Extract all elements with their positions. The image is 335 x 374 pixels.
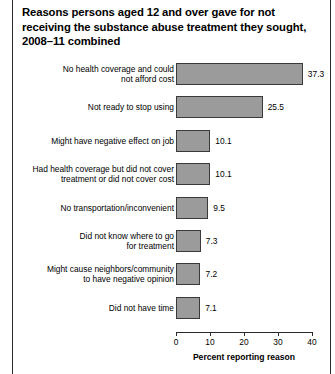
bar-value-label: 25.5 [268,96,284,118]
bar-value-label: 7.1 [205,297,217,319]
x-tick-label: 10 [205,337,214,347]
bar [176,297,200,319]
bar-track: 37.3 [176,58,335,91]
bar-track: 7.1 [176,292,335,325]
plot-area: No health coverage and could not afford … [0,58,335,338]
bar-value-label: 37.3 [308,63,324,85]
bar [176,230,201,252]
bar-rows: No health coverage and could not afford … [0,58,335,325]
bar-row: Might cause neighbors/community to have … [0,258,335,291]
bar [176,130,210,152]
bar [176,96,263,118]
x-tick [312,332,313,336]
bar-track: 25.5 [176,91,335,124]
bar-row: No health coverage and could not afford … [0,58,335,91]
category-label: Might cause neighbors/community to have … [19,264,174,284]
bar-track: 10.1 [176,125,335,158]
bar-row: Did not know where to go for treatment7.… [0,225,335,258]
bar-row: Not ready to stop using25.5 [0,91,335,124]
figure-panel: Reasons persons aged 12 and over gave fo… [0,0,335,374]
x-tick [244,332,245,336]
bar-track: 7.3 [176,225,335,258]
category-label: Not ready to stop using [19,102,174,112]
x-tick-label: 30 [273,337,282,347]
bar-value-label: 7.2 [205,263,217,285]
bar-row: Did not have time7.1 [0,292,335,325]
bar-track: 10.1 [176,158,335,191]
category-label: No health coverage and could not afford … [19,64,174,84]
x-tick-label: 40 [307,337,316,347]
x-tick-label: 20 [239,337,248,347]
category-label: Did not know where to go for treatment [19,231,174,251]
bar-value-label: 9.5 [213,197,225,219]
bar-track: 9.5 [176,192,335,225]
bar [176,163,210,185]
bar-row: Might have negative effect on job10.1 [0,125,335,158]
bar-value-label: 10.1 [215,163,231,185]
bar-row: Had health coverage but did not cover tr… [0,158,335,191]
bar-value-label: 10.1 [215,130,231,152]
category-label: Did not have time [19,303,174,313]
bar-value-label: 7.3 [206,230,218,252]
bar [176,63,303,85]
x-tick-label: 0 [174,337,179,347]
category-label: No transportation/inconvenient [19,203,174,213]
x-tick [210,332,211,336]
bar [176,263,200,285]
x-axis-title: Percent reporting reason [176,352,312,362]
category-label: Had health coverage but did not cover tr… [19,164,174,184]
chart-title: Reasons persons aged 12 and over gave fo… [22,5,322,49]
bar [176,197,208,219]
x-tick [176,332,177,336]
bar-row: No transportation/inconvenient9.5 [0,192,335,225]
x-tick [278,332,279,336]
bar-track: 7.2 [176,258,335,291]
category-label: Might have negative effect on job [19,136,174,146]
